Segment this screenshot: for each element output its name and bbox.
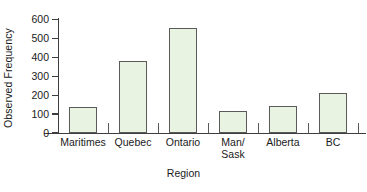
x-axis-tick-label: BC — [302, 137, 364, 149]
x-axis-line — [44, 133, 366, 134]
bar-maritimes — [69, 107, 97, 133]
bar-alberta — [269, 106, 297, 133]
bar-man-sask — [219, 111, 247, 133]
y-axis-tick-label: 300 — [9, 71, 49, 82]
x-axis-tick — [258, 123, 259, 133]
y-axis-tick-label: 400 — [9, 52, 49, 63]
y-axis-tick-label: 600 — [9, 14, 49, 25]
bar-quebec — [119, 61, 147, 133]
y-axis-line — [58, 18, 59, 134]
x-axis-tick — [108, 123, 109, 133]
bar-bc — [319, 93, 347, 133]
x-axis-tick — [208, 123, 209, 133]
x-axis-tick — [158, 123, 159, 133]
y-axis-tick — [52, 132, 58, 133]
y-axis-tick-label: 100 — [9, 109, 49, 120]
y-axis-tick — [52, 57, 58, 58]
y-axis-tick — [52, 95, 58, 96]
y-axis-tick — [52, 113, 58, 114]
y-axis-tick-label: 0 — [9, 128, 49, 139]
x-axis-tick — [358, 123, 359, 133]
bar-chart: Observed Frequency 0100200300400500600 M… — [0, 0, 367, 192]
bar-ontario — [169, 28, 197, 133]
y-axis-tick-label: 200 — [9, 90, 49, 101]
y-axis-tick — [52, 19, 58, 20]
y-axis-tick-label: 500 — [9, 33, 49, 44]
y-axis-tick — [52, 38, 58, 39]
y-axis-tick — [52, 76, 58, 77]
x-axis-tick — [308, 123, 309, 133]
x-axis-title: Region — [0, 167, 367, 179]
